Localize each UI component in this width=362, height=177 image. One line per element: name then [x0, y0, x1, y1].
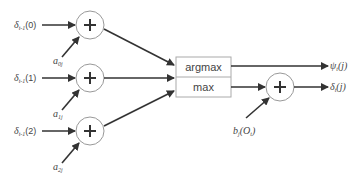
- emission-arrow: [246, 98, 269, 118]
- sum-2-to-box-arrow: [104, 91, 174, 126]
- delta-prev-1-label: δt-1(1): [14, 72, 36, 84]
- a-1j-arrow: [62, 90, 79, 110]
- input-row-0: δt-1(0) a0j: [14, 11, 174, 67]
- viterbi-step-diagram: δt-1(0) a0j δt-1(1) a1j δt-1(2) a2j argm…: [0, 0, 362, 177]
- delta-output-label: δt(j): [330, 81, 346, 93]
- a-0j-label: a0j: [53, 55, 63, 67]
- emission-label: bj(Ot): [233, 125, 256, 137]
- a-2j-arrow: [62, 143, 79, 163]
- a-2j-label: a2j: [53, 161, 63, 173]
- a-0j-arrow: [62, 37, 79, 57]
- max-label: max: [193, 81, 214, 93]
- psi-output-label: ψt(j): [330, 60, 348, 72]
- sum-0-to-box-arrow: [104, 29, 174, 65]
- argmax-max-box: argmax max: [176, 57, 231, 97]
- delta-prev-2-label: δt-1(2): [14, 125, 36, 137]
- delta-prev-0-label: δt-1(0): [14, 19, 36, 31]
- argmax-label: argmax: [185, 61, 222, 73]
- input-row-2: δt-1(2) a2j: [14, 91, 174, 173]
- a-1j-label: a1j: [53, 108, 63, 120]
- input-row-1: δt-1(1) a1j: [14, 64, 174, 120]
